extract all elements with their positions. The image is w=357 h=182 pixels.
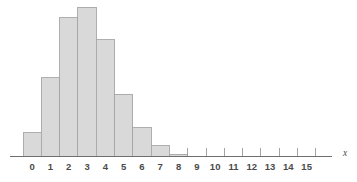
- histogram-bar: [115, 94, 133, 156]
- x-axis-tick-label: 1: [48, 161, 54, 172]
- x-axis-ticks: [188, 148, 316, 156]
- x-axis-tick-label: 0: [30, 161, 35, 172]
- x-axis-name: x: [342, 148, 348, 158]
- x-axis-tick-label: 12: [246, 161, 257, 172]
- histogram-bar: [96, 40, 114, 156]
- x-axis-label: x: [342, 148, 348, 158]
- x-axis-tick-label: 2: [66, 161, 71, 172]
- x-axis-tick-label: 5: [121, 161, 127, 172]
- histogram-bar: [23, 133, 41, 156]
- histogram-bar: [169, 154, 187, 156]
- x-axis-tick-label: 4: [103, 161, 109, 172]
- histogram-bar: [133, 128, 151, 156]
- histogram-bar: [41, 78, 59, 156]
- histogram-bar: [151, 146, 169, 156]
- x-axis-tick-label: 11: [228, 161, 239, 172]
- x-axis-tick-labels: 0123456789101112131415: [30, 161, 313, 172]
- histogram-chart: 0123456789101112131415 x: [0, 0, 357, 182]
- histogram-bar: [60, 18, 78, 156]
- x-axis-tick-label: 15: [301, 161, 312, 172]
- x-axis-tick-label: 3: [84, 161, 89, 172]
- x-axis-tick-label: 9: [194, 161, 199, 172]
- x-axis-tick-label: 10: [210, 161, 221, 172]
- histogram-bar: [78, 7, 96, 156]
- x-axis-tick-label: 8: [176, 161, 181, 172]
- x-axis-tick-label: 14: [283, 161, 294, 172]
- x-axis-tick-label: 7: [158, 161, 163, 172]
- histogram-figure: 0123456789101112131415 x: [0, 0, 357, 182]
- x-axis-tick-label: 13: [265, 161, 276, 172]
- bars-group: [23, 7, 188, 156]
- x-axis-tick-label: 6: [139, 161, 144, 172]
